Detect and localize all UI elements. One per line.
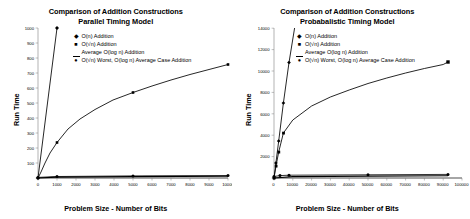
x-axis-title: Problem Size - Number of Bits	[232, 204, 464, 213]
square-marker-icon: ■	[72, 40, 80, 48]
x-tick-label: 60000	[378, 182, 394, 187]
x-axis-title: Problem Size - Number of Bits	[0, 204, 232, 213]
x-tick-label: 6000	[144, 182, 160, 187]
legend-label: O(√n) Worst, O(log n) Average Case Addit…	[82, 56, 192, 64]
x-tick-label: 30000	[322, 182, 338, 187]
chart-legend-probabalistic: ◆ O(n) Addition ■ O(√n) Addition Average…	[296, 32, 415, 64]
x-tick-label: 50000	[360, 182, 376, 187]
x-tick-label: 90000	[435, 182, 451, 187]
y-tick-label: 800	[18, 56, 34, 61]
x-tick-label: 4000	[106, 182, 122, 187]
series-line-o-n	[38, 28, 57, 178]
y-tick-label: 600	[18, 86, 34, 91]
legend-label: O(n) Addition	[82, 32, 114, 40]
y-tick-label: 2000	[250, 154, 270, 159]
x-tick-label: 1000	[49, 182, 65, 187]
x-tick-label: 5000	[125, 182, 141, 187]
x-tick-label: 0	[30, 182, 46, 187]
x-tick-label: 7000	[163, 182, 179, 187]
legend-item: ◆ O(n) Addition	[72, 32, 191, 40]
legend-item: ● O(√n) Worst, O(log n) Average Case Add…	[72, 56, 191, 64]
legend-item: Average O(log n) Addition	[72, 48, 191, 56]
x-tick-label: 2000	[68, 182, 84, 187]
chart-panel-parallel: Comparison of Addition Constructions Par…	[0, 0, 232, 219]
y-tick-label: 14000	[250, 26, 270, 31]
x-tick-label: 3000	[87, 182, 103, 187]
y-axis-title: Run Time	[12, 93, 21, 126]
diamond-marker-icon: ◆	[296, 32, 304, 40]
y-axis-title: Run Time	[244, 93, 253, 126]
y-tick-label: 900	[18, 41, 34, 46]
y-tick-label: 300	[18, 131, 34, 136]
legend-item: ■ O(√n) Addition	[72, 40, 191, 48]
series-markers-o-sqrt-n	[37, 63, 230, 179]
x-tick-label: 40000	[341, 182, 357, 187]
y-tick-marks	[271, 28, 273, 178]
series-markers-o-sqrt-n	[272, 60, 449, 179]
x-tick-label: 80000	[416, 182, 432, 187]
legend-label: Average O(log n) Addition	[82, 48, 145, 56]
legend-item: ● O(√n) Worst, O(log n) Average Case Add…	[296, 56, 415, 64]
y-tick-label: 4000	[250, 133, 270, 138]
x-tick-label: 0	[266, 182, 282, 187]
circle-marker-icon: ●	[72, 56, 80, 64]
y-tick-label: 100	[18, 161, 34, 166]
circle-marker-icon: ●	[296, 56, 304, 64]
diamond-marker-icon: ◆	[72, 32, 80, 40]
y-tick-label: 10000	[250, 69, 270, 74]
y-tick-label: 1000	[18, 26, 34, 31]
chart-panel-probabalistic: Comparison of Addition Constructions Pro…	[232, 0, 464, 219]
square-marker-icon: ■	[296, 40, 304, 48]
legend-label: O(√n) Worst, O(log n) Average Case Addit…	[305, 56, 415, 64]
legend-item: ◆ O(n) Addition	[296, 32, 415, 40]
x-tick-label: 70000	[397, 182, 413, 187]
legend-item: ■ O(√n) Addition	[296, 40, 415, 48]
x-tick-label: 100000	[454, 182, 470, 187]
chart-legend-parallel: ◆ O(n) Addition ■ O(√n) Addition Average…	[72, 32, 191, 64]
legend-label: O(√n) Addition	[82, 40, 117, 48]
x-tick-label: 8000	[182, 182, 198, 187]
x-tick-label: 9000	[201, 182, 217, 187]
legend-label: O(√n) Addition	[305, 40, 340, 48]
x-tick-marks	[38, 178, 228, 181]
y-tick-label: 12000	[250, 47, 270, 52]
x-tick-label: 10000	[284, 182, 300, 187]
legend-label: O(n) Addition	[305, 32, 337, 40]
y-tick-label: 700	[18, 71, 34, 76]
legend-item: Average O(log n) Addition	[296, 48, 415, 56]
series-line-o-sqrt-n	[274, 62, 448, 178]
y-tick-label: 200	[18, 146, 34, 151]
x-tick-label: 20000	[303, 182, 319, 187]
y-tick-marks	[36, 28, 38, 178]
series-line-o-sqrt-n	[38, 65, 228, 179]
legend-label: Average O(log n) Addition	[305, 48, 368, 56]
x-tick-marks	[274, 178, 462, 181]
